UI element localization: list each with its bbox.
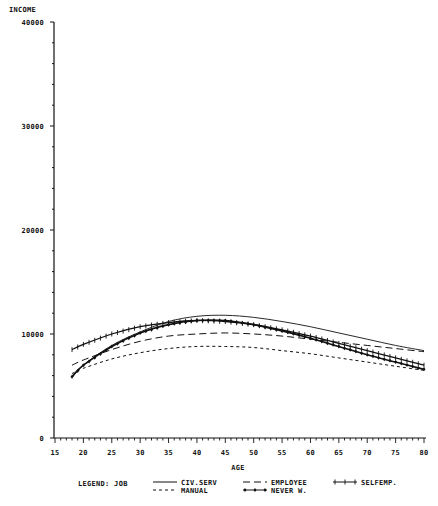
y-axis: INCOME 010000200003000040000 [9,6,54,443]
x-tick-label: 25 [107,449,116,457]
x-tick-label: 60 [306,449,315,457]
legend-item-label: CIV.SERV [181,479,218,487]
y-tick-label: 0 [39,435,44,443]
x-tick-label: 70 [363,449,372,457]
legend-item-label: MANUAL [181,487,208,495]
x-tick-label: 35 [164,449,173,457]
x-tick-label: 50 [249,449,258,457]
legend-item-label: NEVER W. [271,487,307,495]
legend-item-label: SELFEMP. [361,479,397,487]
plot-area [71,315,426,378]
x-tick-label: 55 [278,449,287,457]
legend-item: NEVER W. [243,487,307,495]
legend-title: LEGEND: JOB [78,480,128,488]
x-tick-label: 40 [192,449,201,457]
series-employee [72,333,424,365]
y-axis-title: INCOME [9,6,36,14]
x-tick-label: 65 [334,449,343,457]
x-tick-label: 75 [391,449,400,457]
y-tick-label: 40000 [21,19,44,27]
line-chart: INCOME 010000200003000040000 15202530354… [0,0,438,506]
legend-item: SELFEMP. [333,479,397,487]
legend-item: CIV.SERV [153,479,218,487]
x-axis: 1520253035404550556065707580 AGE [50,438,428,472]
y-tick-label: 30000 [21,123,44,131]
x-tick-label: 15 [50,449,59,457]
y-tick-label: 20000 [21,227,44,235]
legend-item-label: EMPLOYEE [271,479,307,487]
x-tick-label: 80 [419,449,428,457]
y-tick-label: 10000 [21,331,44,339]
legend: LEGEND: JOB CIV.SERVEMPLOYEESELFEMP.MANU… [78,479,397,495]
series-manual [72,346,424,373]
x-tick-label: 45 [221,449,230,457]
x-tick-label: 20 [79,449,88,457]
series-never-w [71,318,426,378]
legend-item: EMPLOYEE [243,479,307,487]
x-axis-title: AGE [231,464,245,472]
x-tick-label: 30 [136,449,145,457]
legend-item: MANUAL [153,487,208,495]
